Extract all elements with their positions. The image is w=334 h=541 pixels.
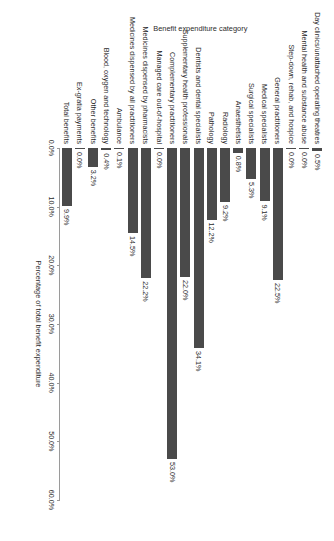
bar-row: Medical specialists9.1% (258, 148, 272, 500)
x-tick-mark (57, 324, 60, 325)
bar-value-label: 22.5% (274, 283, 281, 303)
bar-value-label: 0.4% (103, 153, 110, 169)
category-label: Other benefits (86, 99, 100, 148)
bar-row: Managed care out-of-hospital0.0% (152, 148, 166, 500)
category-label: Medicines dispensed by pharmacists (139, 27, 153, 148)
y-axis-title: Benefit expenditure category (68, 25, 332, 32)
category-label: Dentists and dental specialists (192, 47, 206, 148)
bar-value-label: 0.0% (155, 152, 162, 168)
bar (167, 148, 177, 459)
bar-row: Supplementary health professionals22.0% (178, 148, 192, 500)
x-tick-label: 20.0% (48, 255, 55, 275)
category-label: Blood, oxygen and technology (99, 48, 113, 148)
bar-value-label: 0.5% (314, 154, 321, 170)
bar (141, 148, 151, 278)
x-tick-label: 50.0% (48, 431, 55, 451)
category-label: Surgical specialists (244, 83, 258, 148)
bar-row: Step-down, rehab, and hospice0.0% (284, 148, 298, 500)
bar-value-label: 14.5% (129, 236, 136, 256)
bar-row: Pathology12.2% (205, 148, 219, 500)
bar-value-label: 0.0% (287, 152, 294, 168)
bar-value-label: 0.0% (301, 152, 308, 168)
bar (194, 148, 204, 348)
bar (246, 148, 256, 179)
bar-row: Blood, oxygen and technology0.4% (99, 148, 113, 500)
bar-row: Total benefits9.9% (60, 148, 74, 500)
x-tick-label: 10.0% (48, 196, 55, 216)
category-label: General practitioners (271, 77, 285, 148)
category-label: Step-down, rehab, and hospice (284, 45, 298, 149)
category-label: Ambulance (112, 108, 126, 148)
bar-value-label: 12.2% (208, 223, 215, 243)
bar (286, 148, 296, 149)
bar-row: Ex-gratia payments0.0% (73, 148, 87, 500)
bar (101, 148, 111, 150)
bar-value-label: 34.1% (195, 351, 202, 371)
bar (154, 148, 164, 149)
x-tick-mark (57, 148, 60, 149)
x-tick-mark (57, 265, 60, 266)
bar (233, 148, 243, 153)
bar-row: Day clinics/unattached operating theatre… (310, 148, 324, 500)
bar (312, 148, 322, 151)
rotated-figure-wrapper: Day clinics/unattached operating theatre… (0, 0, 334, 541)
x-tick-label: 0.0% (48, 140, 55, 156)
bar (220, 148, 230, 202)
bar-row: Complementary practitioners53.0% (165, 148, 179, 500)
bar-value-label: 9.2% (221, 205, 228, 221)
bar (128, 148, 138, 233)
bar-value-label: 0.0% (76, 152, 83, 168)
bar-row: Dentists and dental specialists34.1% (192, 148, 206, 500)
bar (299, 148, 309, 149)
bar-chart-figure: Day clinics/unattached operating theatre… (0, 0, 334, 541)
x-tick-label: 40.0% (48, 372, 55, 392)
bar-value-label: 22.2% (142, 281, 149, 301)
category-label: Medical specialists (258, 84, 272, 148)
bar-row: Medicines dispensed by pharmacists22.2% (139, 148, 153, 500)
bar-row: Medicines dispensed by all practitioners… (126, 148, 140, 500)
category-label: Total benefits (60, 102, 74, 148)
bar-row: Mental health and substance abuse0.0% (297, 148, 311, 500)
x-tick-mark (57, 441, 60, 442)
bar-value-label: 9.9% (63, 209, 70, 225)
bar-value-label: 0.8% (235, 156, 242, 172)
x-tick-mark (57, 207, 60, 208)
bar (180, 148, 190, 277)
x-tick-mark (57, 500, 60, 501)
category-label: Managed care out-of-hospital (152, 51, 166, 149)
bar (207, 148, 217, 220)
plot-area: Day clinics/unattached operating theatre… (60, 148, 324, 500)
bar-value-label: 22.0% (182, 280, 189, 300)
x-tick-mark (57, 383, 60, 384)
category-label: Mental health and substance abuse (297, 31, 311, 148)
bar (88, 148, 98, 167)
bar-value-label: 53.0% (169, 462, 176, 482)
bar-row: General practitioners22.5% (271, 148, 285, 500)
bar-value-label: 9.1% (261, 204, 268, 220)
bar (114, 148, 124, 149)
category-label: Anaesthetists (231, 101, 245, 148)
bar-row: Anaesthetists0.8% (231, 148, 245, 500)
category-label: Supplementary health professionals (178, 30, 192, 148)
category-label: Medicines dispensed by all practitioners (126, 17, 140, 148)
bar-row: Radiology9.2% (218, 148, 232, 500)
bar-row: Surgical specialists5.3% (244, 148, 258, 500)
bar-row: Other benefits3.2% (86, 148, 100, 500)
x-axis-title: Percentage of total benefit expenditure (35, 148, 42, 500)
category-label: Ex-gratia payments (73, 82, 87, 148)
bar (273, 148, 283, 280)
bar (62, 148, 72, 206)
x-tick-label: 30.0% (48, 314, 55, 334)
bar-row: Ambulance0.1% (112, 148, 126, 500)
bar (75, 148, 85, 149)
bar-value-label: 5.3% (248, 182, 255, 198)
x-tick-label: 60.0% (48, 490, 55, 510)
category-label: Complementary practitioners (165, 52, 179, 148)
category-label: Pathology (205, 112, 219, 148)
bar-value-label: 3.2% (89, 170, 96, 186)
category-label: Radiology (218, 112, 232, 148)
bar-value-label: 0.1% (116, 152, 123, 168)
bar (260, 148, 270, 201)
